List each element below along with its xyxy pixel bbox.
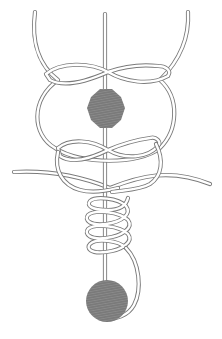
- horizontal-line: [14, 172, 210, 188]
- knot-diagram: [0, 0, 222, 339]
- upper-crossing: [46, 65, 169, 84]
- coil: [87, 198, 130, 252]
- upper-bead: [87, 89, 125, 128]
- lower-crossing: [57, 138, 161, 192]
- lower-bead: [86, 280, 128, 322]
- upper-loop: [34, 12, 188, 161]
